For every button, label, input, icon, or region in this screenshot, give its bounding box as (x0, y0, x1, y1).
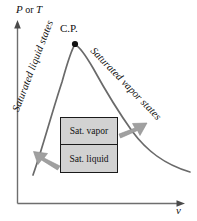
arrow-to-vapor-branch-icon (119, 123, 147, 138)
sat-liquid-cell: Sat. liquid (61, 145, 117, 172)
x-axis-label: v (176, 205, 181, 216)
two-phase-box: Sat. vapor Sat. liquid (60, 117, 118, 173)
arrow-to-liquid-branch-icon (34, 152, 61, 171)
sat-vapor-cell: Sat. vapor (61, 118, 117, 145)
y-axis-label-conjunction: or (23, 4, 36, 15)
y-axis-label-pressure: P (16, 3, 23, 15)
diagram-graphics (0, 0, 197, 221)
y-axis-label: P or T (16, 4, 42, 15)
critical-point-label: C.P. (60, 23, 78, 34)
x-axis (18, 200, 186, 207)
saturation-dome-figure: P or T v C.P. Saturated liquid states Sa… (0, 0, 197, 221)
y-axis-label-temperature: T (36, 3, 42, 15)
critical-point-marker (72, 41, 78, 47)
